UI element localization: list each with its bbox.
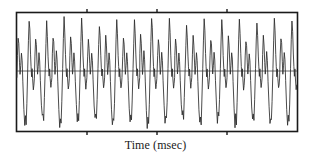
waveform-trace (17, 17, 297, 129)
figure-container: Time (msec) (0, 0, 311, 162)
x-axis-label: Time (msec) (0, 138, 311, 152)
